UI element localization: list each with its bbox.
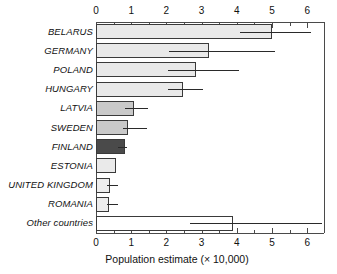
- x-tick-label-bottom-2: 2: [156, 237, 176, 248]
- x-tick-major-bottom-4: [237, 228, 238, 233]
- error-bar-line-poland: [168, 70, 239, 71]
- category-label-poland: POLAND: [53, 64, 93, 75]
- x-tick-label-bottom-6: 6: [297, 237, 317, 248]
- x-tick-label-bottom-0: 0: [86, 237, 106, 248]
- x-tick-label-top-0: 0: [86, 5, 106, 16]
- category-label-hungary: HUNGARY: [45, 83, 93, 94]
- category-label-other-countries: Other countries: [27, 217, 93, 228]
- x-tick-major-top-6: [307, 23, 308, 28]
- error-bar-line-sweden: [123, 128, 147, 129]
- category-label-germany: GERMANY: [44, 45, 93, 56]
- x-tick-label-bottom-5: 5: [262, 237, 282, 248]
- x-axis-title: Population estimate (× 10,000): [30, 253, 324, 265]
- category-label-romania: ROMANIA: [48, 198, 93, 209]
- error-bar-line-united-kingdom: [107, 185, 119, 186]
- x-axis-bottom-line: [96, 233, 324, 234]
- bar-chart: 00112233445566BELARUSGERMANYPOLANDHUNGAR…: [0, 0, 337, 274]
- x-tick-major-bottom-6: [307, 228, 308, 233]
- x-tick-major-top-5: [272, 23, 273, 28]
- x-tick-minor-top-5.5: [290, 23, 291, 26]
- x-tick-label-top-1: 1: [121, 5, 141, 16]
- x-tick-minor-bottom-5.5: [290, 230, 291, 233]
- x-tick-label-bottom-4: 4: [227, 237, 247, 248]
- category-label-belarus: BELARUS: [48, 26, 93, 37]
- x-tick-label-top-3: 3: [192, 5, 212, 16]
- x-tick-label-top-5: 5: [262, 5, 282, 16]
- x-tick-label-top-2: 2: [156, 5, 176, 16]
- error-bar-line-other-countries: [190, 223, 322, 224]
- category-label-united-kingdom: UNITED KINGDOM: [8, 179, 93, 190]
- error-bar-line-latvia: [125, 108, 149, 109]
- plot-frame-right-edge: [324, 22, 325, 233]
- bar-estonia: [96, 158, 116, 173]
- x-tick-label-top-4: 4: [227, 5, 247, 16]
- x-tick-major-bottom-5: [272, 228, 273, 233]
- error-bar-line-germany: [169, 51, 275, 52]
- error-bar-line-finland: [118, 147, 128, 148]
- error-bar-line-hungary: [168, 89, 203, 90]
- x-tick-label-bottom-1: 1: [121, 237, 141, 248]
- category-label-estonia: ESTONIA: [51, 160, 93, 171]
- x-tick-label-bottom-3: 3: [192, 237, 212, 248]
- category-label-latvia: LATVIA: [60, 102, 93, 113]
- x-tick-minor-bottom-4.5: [254, 230, 255, 233]
- error-bar-line-romania: [107, 204, 119, 205]
- x-tick-label-top-6: 6: [297, 5, 317, 16]
- category-label-sweden: SWEDEN: [51, 122, 93, 133]
- category-label-finland: FINLAND: [52, 141, 93, 152]
- error-bar-line-belarus: [240, 32, 311, 33]
